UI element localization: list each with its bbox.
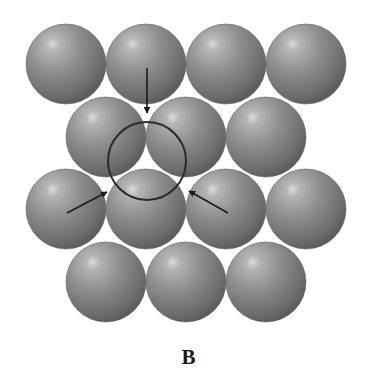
sphere-r4-c3	[226, 242, 306, 322]
sphere-r2-c3	[226, 97, 306, 177]
close-packed-spheres-diagram	[0, 0, 377, 371]
sphere-r3-c4	[266, 169, 346, 249]
sphere-r1-c4	[266, 24, 346, 104]
sphere-r3-c3	[186, 169, 266, 249]
sphere-r1-c2	[106, 24, 186, 104]
sphere-r1-c3	[186, 24, 266, 104]
sphere-r4-c1	[66, 242, 146, 322]
sphere-r1-c1	[26, 24, 106, 104]
figure-caption: B	[0, 345, 377, 369]
sphere-r3-c1	[26, 169, 106, 249]
sphere-r3-c2	[106, 169, 186, 249]
sphere-r2-c1	[66, 97, 146, 177]
sphere-layer	[26, 24, 346, 322]
sphere-r4-c2	[146, 242, 226, 322]
